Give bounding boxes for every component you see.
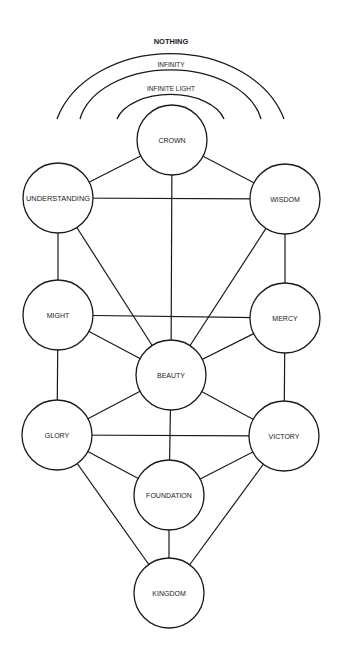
tree-of-life-diagram: NOTHING INFINITY INFINITE LIGHT CROWN (0, 0, 339, 666)
label-nothing: NOTHING (154, 37, 189, 46)
nodes-group: CROWN UNDERSTANDING WISDOM MIGHT MERCY B… (22, 105, 320, 628)
node-might-label: MIGHT (47, 312, 70, 319)
node-crown: CROWN (137, 105, 207, 175)
node-wisdom: WISDOM (250, 164, 320, 234)
node-wisdom-label: WISDOM (270, 196, 300, 203)
node-victory: VICTORY (249, 401, 319, 471)
node-understanding-label: UNDERSTANDING (26, 195, 90, 202)
label-infinity: INFINITY (157, 61, 185, 68)
node-understanding: UNDERSTANDING (23, 163, 93, 233)
node-foundation-label: FOUNDATION (146, 492, 192, 499)
node-kingdom-label: KINGDOM (152, 590, 186, 597)
node-kingdom: KINGDOM (134, 558, 204, 628)
node-beauty-label: BEAUTY (157, 372, 185, 379)
node-beauty: BEAUTY (136, 340, 206, 410)
node-crown-label: CROWN (158, 137, 185, 144)
node-glory-label: GLORY (45, 432, 70, 439)
node-mercy: MERCY (250, 283, 320, 353)
node-glory: GLORY (22, 400, 92, 470)
node-might: MIGHT (23, 280, 93, 350)
node-mercy-label: MERCY (272, 315, 298, 322)
node-victory-label: VICTORY (269, 433, 300, 440)
node-foundation: FOUNDATION (134, 460, 204, 530)
label-infinite-light: INFINITE LIGHT (147, 85, 195, 92)
